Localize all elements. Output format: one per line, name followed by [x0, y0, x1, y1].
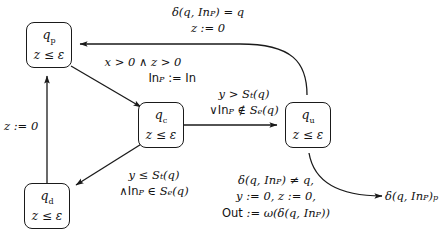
edge-label-qu-to-qp-line2: z := 0	[128, 20, 288, 36]
edge-label-qc-to-qu: y > St(q) ∨InP ∉ Se(q)	[188, 86, 300, 119]
state-invariant-qu: z ≤ ε	[293, 128, 323, 143]
edge-label-qp-to-qc-line2: InP := In	[84, 70, 202, 86]
exit-target-label: δ(q, InP)p	[385, 188, 448, 204]
state-label-qd: qd	[40, 188, 53, 207]
state-label-qp: qp	[42, 27, 55, 46]
edge-label-qu-to-exit-line1: δ(q, InP) ≠ q,	[196, 172, 356, 188]
state-invariant-qd: z ≤ ε	[32, 209, 62, 224]
state-invariant-qc: z ≤ ε	[146, 128, 176, 143]
state-label-qu: qu	[301, 107, 314, 126]
diagram-canvas: qp z ≤ ε qc z ≤ ε qu z ≤ ε qd z ≤ ε δ(q,…	[0, 0, 448, 240]
edge-label-qp-to-qc: x > 0 ∧ z > 0 InP := In	[84, 54, 202, 87]
edge-label-qu-to-exit-line2: y := 0, z := 0,	[196, 188, 356, 204]
edge-label-qc-to-qu-line1: y > St(q)	[188, 86, 300, 102]
edge-label-qu-to-qp-line1: δ(q, InP) = q	[128, 4, 288, 20]
edge-label-qc-to-qu-line2: ∨InP ∉ Se(q)	[188, 102, 300, 118]
state-node-qp[interactable]: qp z ≤ ε	[26, 22, 72, 68]
state-invariant-qp: z ≤ ε	[34, 48, 64, 63]
edge-label-qu-to-exit: δ(q, InP) ≠ q, y := 0, z := 0, Out := ω(…	[196, 172, 356, 221]
edge-label-qu-to-exit-line3: Out := ω(δ(q, InP))	[196, 205, 356, 221]
state-node-qd[interactable]: qd z ≤ ε	[24, 183, 70, 229]
edge-label-qp-to-qc-line1: x > 0 ∧ z > 0	[84, 54, 202, 70]
state-node-qc[interactable]: qc z ≤ ε	[138, 102, 184, 148]
state-label-qc: qc	[155, 107, 168, 126]
edge-label-qu-to-qp: δ(q, InP) = q z := 0	[128, 4, 288, 37]
edge-label-qd-to-qp: z := 0	[4, 118, 44, 134]
